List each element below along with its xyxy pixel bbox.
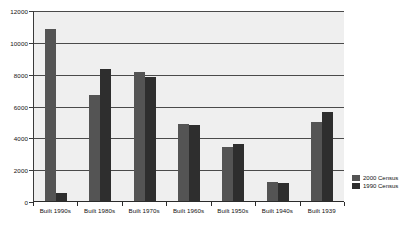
legend-swatch-1990-census: [352, 183, 360, 189]
x-axis-label: Built 1960s: [166, 207, 210, 214]
x-axis-tick-mark: [300, 202, 301, 206]
bar-group: [211, 11, 255, 202]
bar[interactable]: [267, 182, 278, 202]
bar[interactable]: [45, 29, 56, 202]
y-axis-tick-label: 8000: [14, 71, 28, 78]
x-axis-label: Built 1990s: [33, 207, 77, 214]
bar[interactable]: [311, 122, 322, 202]
plot-area: 020004000600080001000012000: [33, 11, 344, 202]
x-axis-tick-mark: [166, 202, 167, 206]
bar-group: [34, 11, 78, 202]
x-axis-tick-mark: [77, 202, 78, 206]
x-axis-tick-mark: [344, 202, 345, 206]
bar-group: [78, 11, 122, 202]
bar[interactable]: [89, 95, 100, 202]
bar[interactable]: [100, 69, 111, 202]
x-axis-label: Built 1950s: [211, 207, 255, 214]
bar[interactable]: [222, 147, 233, 202]
bar[interactable]: [189, 125, 200, 202]
y-axis-tick-label: 4000: [14, 135, 28, 142]
x-axis-tick-mark: [33, 202, 34, 206]
legend-label-1990-census: 1990 Census: [363, 183, 398, 189]
legend-swatch-2000-census: [352, 175, 360, 181]
x-axis-tick-mark: [255, 202, 256, 206]
legend-label-2000-census: 2000 Census: [363, 175, 398, 181]
x-axis-tick-mark: [211, 202, 212, 206]
chart-legend: 2000 Census 1990 Census: [352, 175, 398, 189]
x-axis-tick-mark: [122, 202, 123, 206]
bar-group: [300, 11, 344, 202]
x-axis-label: Built 1939: [300, 207, 344, 214]
y-axis-tick-label: 0: [24, 199, 28, 206]
bar[interactable]: [145, 77, 156, 202]
y-axis-tick-label: 12000: [10, 8, 28, 15]
bar-group: [123, 11, 167, 202]
bar-groups: [34, 11, 344, 202]
x-axis-labels: Built 1990sBuilt 1980sBuilt 1970sBuilt 1…: [33, 207, 344, 214]
bar[interactable]: [233, 144, 244, 202]
bar[interactable]: [178, 124, 189, 202]
y-axis-tick-label: 6000: [14, 103, 28, 110]
chart-figure: 020004000600080001000012000 Built 1990sB…: [0, 0, 399, 235]
legend-item-1990-census[interactable]: 1990 Census: [352, 183, 398, 189]
x-axis-label: Built 1940s: [255, 207, 299, 214]
bar-group: [255, 11, 299, 202]
y-axis-tick-label: 10000: [10, 39, 28, 46]
bar[interactable]: [322, 112, 333, 202]
legend-item-2000-census[interactable]: 2000 Census: [352, 175, 398, 181]
x-axis-label: Built 1980s: [77, 207, 121, 214]
bar[interactable]: [278, 183, 289, 202]
y-axis-tick-label: 2000: [14, 167, 28, 174]
bar-group: [167, 11, 211, 202]
x-axis-label: Built 1970s: [122, 207, 166, 214]
bar[interactable]: [134, 72, 145, 202]
